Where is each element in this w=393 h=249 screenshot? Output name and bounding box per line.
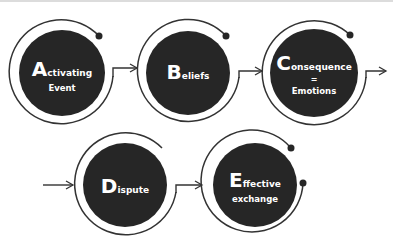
step-e-dot-right-icon [300,180,307,187]
step-a-dot-icon [96,33,103,40]
step-b-initial: B [167,60,182,84]
step-c-equals: = [276,76,352,84]
step-b-rest: eliefs [182,71,210,81]
step-e-label: Effective exchange [229,170,281,204]
step-e-line2: exchange [229,195,281,204]
step-d-rest: ispute [117,185,149,195]
step-a-line2: Event [32,84,92,93]
step-b-dot-icon [223,33,230,40]
step-d-initial: D [101,174,118,198]
abc-model-diagram [0,0,393,249]
arrow-c-out-icon [366,71,386,78]
step-c-initial: C [276,51,291,75]
step-e-initial: E [229,168,243,192]
step-b-label: Beliefs [167,62,210,82]
arrow-a-to-b-icon [113,68,137,77]
step-e-rest: ffective [243,179,281,189]
step-d-label: Dispute [101,176,149,196]
step-c-line3: Emotions [276,87,352,96]
step-c-rest: onsequence [291,62,352,72]
step-c-label: Consequence = Emotions [276,53,352,96]
step-e-dot-top-icon [288,145,295,152]
step-c-dot-icon [347,32,354,39]
step-a-initial: A [32,57,47,81]
step-a-rest: ctivating [47,68,92,78]
step-a-label: Activating Event [32,59,92,93]
arrow-b-to-c-icon [239,71,262,78]
arrow-d-to-e-icon [176,185,202,193]
